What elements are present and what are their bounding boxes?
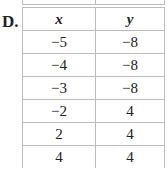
xy-table: x y −5 −8 −4 −8 −3 −8 −2 4 2 4 4 4 bbox=[22, 7, 165, 168]
cell-x: 4 bbox=[23, 146, 96, 169]
cell-y: −8 bbox=[96, 31, 165, 54]
table-row: −5 −8 bbox=[23, 31, 165, 54]
cell-x: 2 bbox=[23, 123, 96, 146]
table-row: 2 4 bbox=[23, 123, 165, 146]
cell-x: −2 bbox=[23, 100, 96, 123]
option-label: D. bbox=[2, 13, 19, 30]
cell-y: 4 bbox=[96, 146, 165, 169]
cell-x: −5 bbox=[23, 31, 96, 54]
cell-x: −3 bbox=[23, 77, 96, 100]
header-y: y bbox=[96, 8, 165, 31]
previous-table-fragment bbox=[22, 0, 165, 5]
cell-y: 4 bbox=[96, 123, 165, 146]
cell-x: −4 bbox=[23, 54, 96, 77]
table-row: −3 −8 bbox=[23, 77, 165, 100]
table-row: −2 4 bbox=[23, 100, 165, 123]
cell-y: 4 bbox=[96, 100, 165, 123]
cell-y: −8 bbox=[96, 54, 165, 77]
header-x: x bbox=[23, 8, 96, 31]
table-row: 4 4 bbox=[23, 146, 165, 169]
cell-y: −8 bbox=[96, 77, 165, 100]
header-row: x y bbox=[23, 8, 165, 31]
table-row: −4 −8 bbox=[23, 54, 165, 77]
